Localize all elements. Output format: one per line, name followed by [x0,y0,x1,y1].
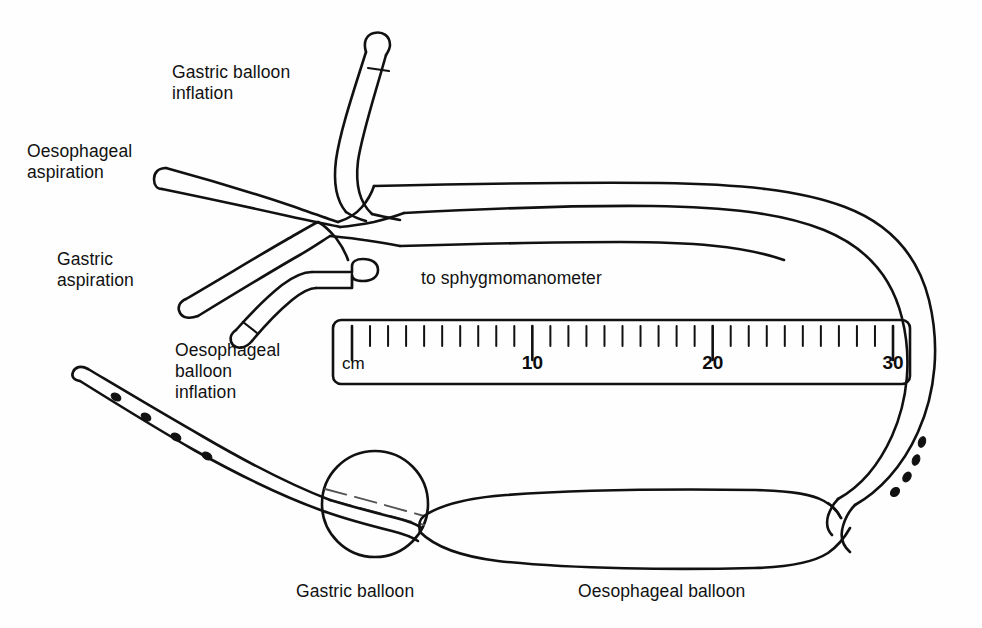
gastric-aspiration-lumen [179,222,330,318]
label-oesophageal-aspiration: Oesophageal aspiration [27,141,132,183]
ruler-ticks [352,326,893,360]
oesophageal-aspiration-lumen [154,168,340,227]
oesophageal-balloon-inflation-lumen [231,272,316,348]
figure-canvas: Gastric balloon inflation Oesophageal as… [0,0,982,628]
main-tube-lower-run [400,242,784,260]
sphygmomanometer-connector [312,259,378,288]
main-tube-upper-run [374,183,935,505]
ruler-major-label-10: 10 [522,352,543,374]
internal-tube-through-gastric-balloon [325,489,424,525]
label-gastric-balloon-inflation: Gastric balloon inflation [172,62,290,104]
label-gastric-aspiration: Gastric aspiration [57,249,134,291]
oesophageal-balloon [419,490,850,569]
ruler-major-label-20: 20 [702,352,723,374]
label-to-sphygmomanometer: to sphygmomanometer [421,268,602,289]
sengstaken-blakemore-tube-diagram [0,0,982,628]
ruler-major-label-30: 30 [883,352,904,374]
intergastric-connector [326,500,422,541]
ruler-unit-label: cm [342,354,365,374]
main-tube-right-limb [827,499,855,552]
right-limb-drainage-holes [889,436,927,498]
gastric-balloon [322,451,428,557]
label-oesophageal-balloon-inflation: Oesophageal balloon inflation [175,340,280,403]
label-oesophageal-balloon: Oesophageal balloon [578,581,745,602]
label-gastric-balloon: Gastric balloon [296,581,414,602]
